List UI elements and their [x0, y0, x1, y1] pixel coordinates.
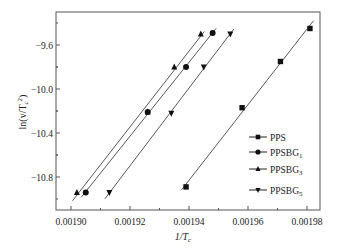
x-tick-label: 0.00190 — [56, 217, 87, 227]
y-axis-label: ln(v/Tc2) — [16, 95, 30, 130]
y-tick-label: −10.4 — [31, 129, 53, 139]
legend-item: PPSBG5 — [249, 186, 303, 198]
legend: PPSPPSBG1PPSBG3PPSBG5 — [249, 133, 303, 198]
plot-frame — [56, 12, 320, 210]
svg-text:PPSBG5: PPSBG5 — [270, 186, 303, 198]
legend-item: PPSBG3 — [249, 165, 303, 177]
x-tick-label: 0.00194 — [174, 217, 205, 227]
x-tick-label: 0.00192 — [115, 217, 146, 227]
svg-text:PPSBG1: PPSBG1 — [270, 148, 303, 160]
series-ppsbg3 — [72, 31, 204, 201]
y-tick-label: −10.0 — [31, 85, 53, 95]
legend-item: PPS — [249, 133, 286, 143]
series-ppsbg5 — [105, 29, 234, 199]
x-axis-label: 1/Tc — [175, 231, 192, 244]
legend-item: PPSBG1 — [249, 148, 303, 160]
arrhenius-plot: 0.001900.001920.001940.001960.00198 −9.6… — [0, 0, 338, 248]
svg-text:PPS: PPS — [270, 133, 286, 143]
y-tick-label: −9.6 — [36, 41, 53, 51]
y-tick-label: −10.8 — [31, 173, 53, 183]
x-tick-label: 0.00198 — [292, 217, 323, 227]
x-tick-label: 0.00196 — [233, 217, 264, 227]
svg-text:PPSBG3: PPSBG3 — [270, 165, 303, 177]
x-axis-ticks: 0.001900.001920.001940.001960.00198 — [56, 206, 323, 227]
